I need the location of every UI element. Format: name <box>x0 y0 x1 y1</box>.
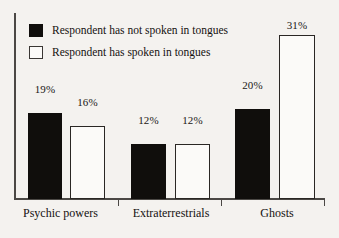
x-axis-label-psychic-powers: Psychic powers <box>8 206 113 220</box>
bar-ghosts-spoken <box>279 35 315 199</box>
x-axis-label-extraterrestrials: Extraterrestrials <box>111 206 231 220</box>
legend-item-not-spoken: Respondent has not spoken in tongues <box>29 21 228 39</box>
bar-psychic-powers-spoken <box>70 126 105 199</box>
bar-ghosts-not-spoken <box>235 109 270 199</box>
bar-value-ghosts-not-spoken: 20% <box>235 80 270 91</box>
chart-legend: Respondent has not spoken in tongues Res… <box>29 21 228 65</box>
bar-extraterrestrials-not-spoken <box>131 144 166 199</box>
legend-swatch-solid-icon <box>29 24 43 37</box>
legend-swatch-hollow-icon <box>29 46 43 59</box>
legend-label-not-spoken: Respondent has not spoken in tongues <box>52 24 228 37</box>
bar-value-extraterrestrials-spoken: 12% <box>175 115 210 126</box>
bar-value-psychic-powers-spoken: 16% <box>70 97 105 108</box>
bar-chart: 19% 16% Psychic powers 12% 12% Extraterr… <box>0 0 339 238</box>
x-axis-label-ghosts: Ghosts <box>237 206 317 220</box>
legend-label-spoken: Respondent has spoken in tongues <box>52 46 210 59</box>
bar-psychic-powers-not-spoken <box>28 113 62 199</box>
bar-extraterrestrials-spoken <box>175 144 210 199</box>
bar-value-extraterrestrials-not-spoken: 12% <box>131 115 166 126</box>
bar-value-psychic-powers-not-spoken: 19% <box>28 84 62 95</box>
legend-item-spoken: Respondent has spoken in tongues <box>29 43 228 61</box>
bar-value-ghosts-spoken: 31% <box>279 20 315 31</box>
